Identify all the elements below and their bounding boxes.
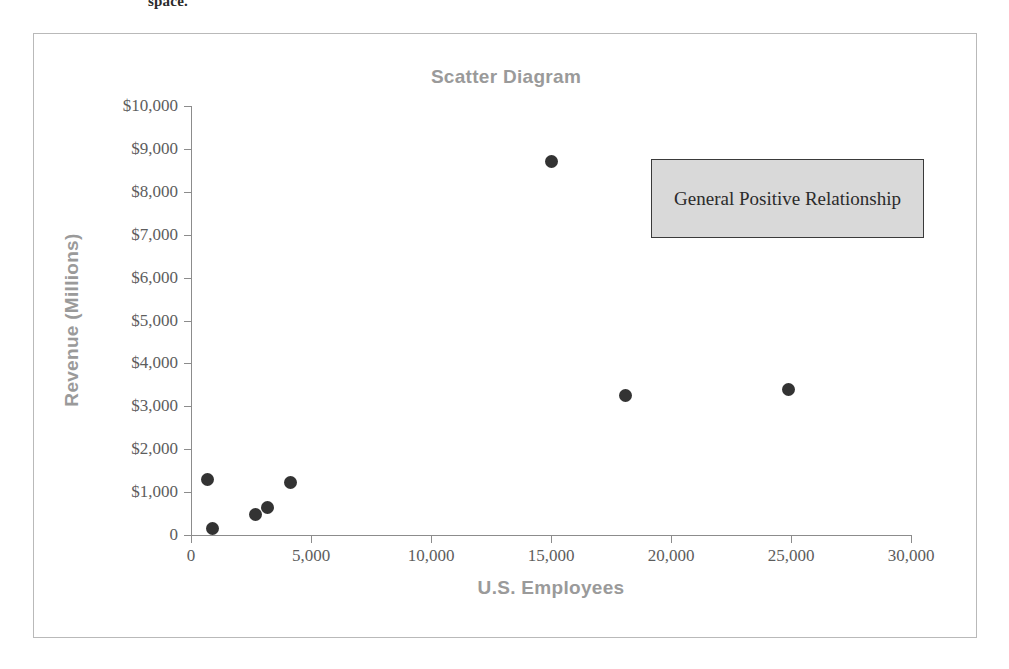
x-axis-tick — [671, 536, 672, 543]
page-top-text-fragment: space. — [148, 0, 188, 10]
x-axis-tick-label: 0 — [131, 546, 251, 566]
scatter-data-point — [782, 383, 795, 396]
y-axis-tick-label: $6,000 — [88, 268, 178, 288]
x-axis-title: U.S. Employees — [191, 577, 911, 599]
y-axis-tick-label: $1,000 — [88, 482, 178, 502]
y-axis-tick-label: 0 — [88, 525, 178, 545]
chart-title: Scatter Diagram — [34, 66, 978, 88]
scatter-data-point — [261, 501, 274, 514]
x-axis-tick-label: 30,000 — [851, 546, 971, 566]
y-axis-tick — [184, 106, 191, 107]
scatter-data-point — [201, 473, 214, 486]
x-axis-tick — [791, 536, 792, 543]
y-axis-tick — [184, 449, 191, 450]
y-axis-tick — [184, 235, 191, 236]
x-axis-tick — [431, 536, 432, 543]
y-axis-tick — [184, 192, 191, 193]
scatter-data-point — [206, 522, 219, 535]
y-axis-tick-label: $8,000 — [88, 182, 178, 202]
y-axis-tick-label: $10,000 — [88, 96, 178, 116]
y-axis-tick — [184, 406, 191, 407]
x-axis-tick-label: 5,000 — [251, 546, 371, 566]
y-axis-tick — [184, 363, 191, 364]
x-axis-tick-label: 15,000 — [491, 546, 611, 566]
y-axis-tick-label: $2,000 — [88, 439, 178, 459]
x-axis-tick — [551, 536, 552, 543]
x-axis-tick-label: 25,000 — [731, 546, 851, 566]
y-axis-tick-label: $4,000 — [88, 353, 178, 373]
y-axis-tick — [184, 149, 191, 150]
y-axis-tick — [184, 492, 191, 493]
y-axis-tick-label: $9,000 — [88, 139, 178, 159]
y-axis-title: Revenue (Millions) — [61, 190, 83, 450]
x-axis-tick-label: 10,000 — [371, 546, 491, 566]
x-axis-tick — [911, 536, 912, 543]
y-axis-tick — [184, 278, 191, 279]
x-axis-tick-label: 20,000 — [611, 546, 731, 566]
x-axis-tick — [191, 536, 192, 543]
scatter-data-point — [545, 155, 558, 168]
scatter-data-point — [249, 508, 262, 521]
x-axis-tick — [311, 536, 312, 543]
y-axis-tick — [184, 321, 191, 322]
annotation-callout-box: General Positive Relationship — [651, 159, 924, 238]
scatter-data-point — [619, 389, 632, 402]
y-axis-tick-label: $5,000 — [88, 311, 178, 331]
y-axis-tick-label: $7,000 — [88, 225, 178, 245]
y-axis-tick-label: $3,000 — [88, 396, 178, 416]
chart-figure-frame: Scatter Diagram Revenue (Millions) U.S. … — [33, 33, 977, 638]
y-axis-tick — [184, 535, 191, 536]
scatter-data-point — [284, 476, 297, 489]
annotation-callout-text: General Positive Relationship — [674, 188, 901, 210]
